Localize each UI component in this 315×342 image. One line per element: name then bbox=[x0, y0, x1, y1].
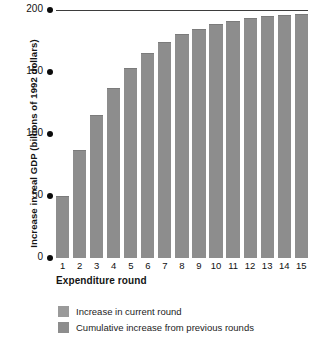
bar-slot bbox=[73, 10, 86, 258]
bar-slot bbox=[192, 10, 205, 258]
legend-item-current-round: Increase in current round bbox=[58, 303, 308, 319]
y-tick-dot-100 bbox=[47, 131, 53, 137]
x-axis-title: Expenditure round bbox=[56, 275, 308, 286]
x-tick-label: 10 bbox=[209, 260, 222, 271]
x-tick-label: 9 bbox=[192, 260, 205, 271]
bar[interactable] bbox=[124, 68, 137, 258]
x-tick-label: 7 bbox=[158, 260, 171, 271]
x-tick-label: 4 bbox=[107, 260, 120, 271]
bar[interactable] bbox=[73, 150, 86, 259]
x-tick-label: 6 bbox=[141, 260, 154, 271]
bar-slot bbox=[158, 10, 171, 258]
bar-slot bbox=[141, 10, 154, 258]
bar[interactable] bbox=[107, 88, 120, 258]
x-tick-label: 13 bbox=[261, 260, 274, 271]
bar[interactable] bbox=[209, 24, 222, 258]
legend-swatch-cumulative bbox=[58, 322, 69, 333]
legend-swatch-current-round bbox=[58, 306, 69, 317]
x-tick-label: 15 bbox=[295, 260, 308, 271]
bar-slot bbox=[175, 10, 188, 258]
bar[interactable] bbox=[56, 196, 69, 258]
x-tick-label: 3 bbox=[90, 260, 103, 271]
bar[interactable] bbox=[175, 34, 188, 258]
bar-slot bbox=[124, 10, 137, 258]
bar[interactable] bbox=[158, 42, 171, 258]
bar-series bbox=[56, 10, 308, 258]
x-axis-ticks: 123456789101112131415 bbox=[56, 260, 308, 271]
y-tick-dot-50 bbox=[47, 193, 53, 199]
bar-slot bbox=[261, 10, 274, 258]
bar-chart-figure: Increase in real GDP (billions of 1992 d… bbox=[0, 0, 315, 342]
y-tick-label-0: 0 bbox=[37, 251, 43, 262]
bar-slot bbox=[107, 10, 120, 258]
y-tick-label-100: 100 bbox=[26, 127, 43, 138]
plot-area: 200 150 100 50 0 bbox=[56, 10, 308, 258]
y-tick-label-150: 150 bbox=[26, 65, 43, 76]
x-tick-label: 14 bbox=[278, 260, 291, 271]
bar[interactable] bbox=[90, 115, 103, 258]
x-tick-label: 2 bbox=[73, 260, 86, 271]
x-tick-label: 8 bbox=[175, 260, 188, 271]
bar-slot bbox=[90, 10, 103, 258]
bar-slot bbox=[295, 10, 308, 258]
x-tick-label: 11 bbox=[226, 260, 239, 271]
bar[interactable] bbox=[226, 21, 239, 258]
bar[interactable] bbox=[295, 14, 308, 258]
bar-slot bbox=[278, 10, 291, 258]
y-tick-label-200: 200 bbox=[26, 3, 43, 14]
legend-label-cumulative: Cumulative increase from previous rounds bbox=[76, 322, 254, 333]
y-tick-label-50: 50 bbox=[32, 189, 43, 200]
bar[interactable] bbox=[244, 18, 257, 258]
bar-slot bbox=[244, 10, 257, 258]
legend-label-current-round: Increase in current round bbox=[76, 306, 182, 317]
bar[interactable] bbox=[278, 15, 291, 258]
bar-slot bbox=[56, 10, 69, 258]
bar[interactable] bbox=[261, 16, 274, 258]
bar[interactable] bbox=[192, 29, 205, 258]
x-tick-label: 12 bbox=[244, 260, 257, 271]
legend-item-cumulative: Cumulative increase from previous rounds bbox=[58, 319, 308, 335]
bar-slot bbox=[226, 10, 239, 258]
x-tick-label: 5 bbox=[124, 260, 137, 271]
y-tick-dot-150 bbox=[47, 69, 53, 75]
x-tick-label: 1 bbox=[56, 260, 69, 271]
y-tick-dot-0 bbox=[47, 255, 53, 261]
y-axis-title: Increase in real GDP (billions of 1992 d… bbox=[28, 19, 39, 269]
bar[interactable] bbox=[141, 53, 154, 258]
y-tick-dot-200 bbox=[47, 7, 53, 13]
bar-slot bbox=[209, 10, 222, 258]
chart-legend: Increase in current round Cumulative inc… bbox=[58, 303, 308, 335]
